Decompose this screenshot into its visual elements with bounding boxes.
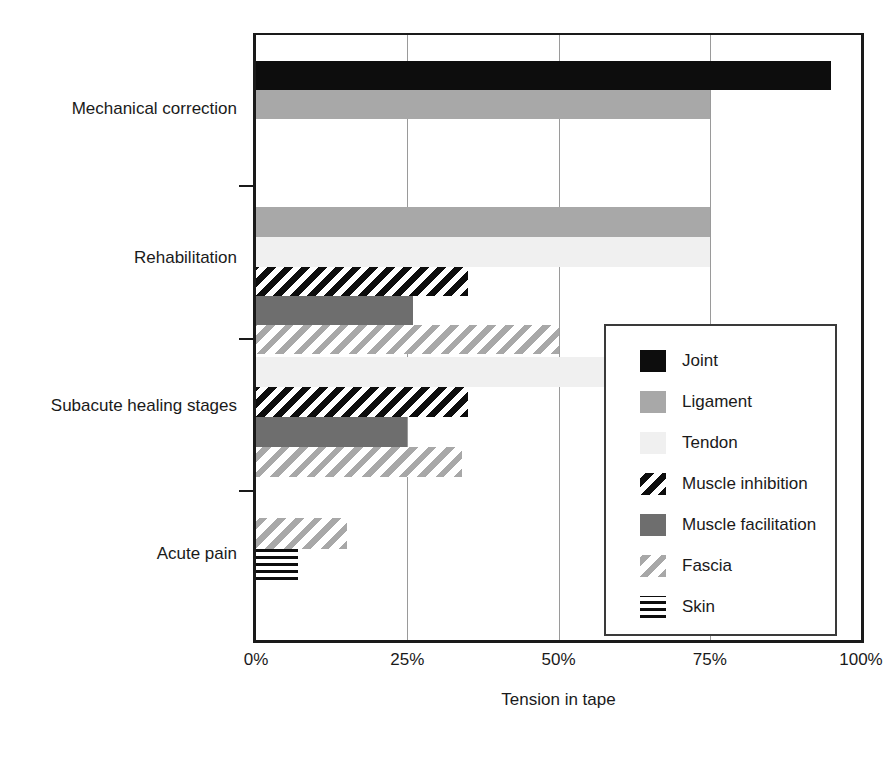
legend-label: Joint — [682, 351, 718, 371]
legend-item-ligament[interactable]: Ligament — [606, 381, 835, 422]
x-axis-tick-label-2: 50% — [541, 650, 575, 670]
bar — [256, 207, 710, 237]
y-axis-label-1: Rehabilitation — [134, 248, 237, 268]
y-axis-tick-0 — [239, 185, 255, 187]
legend-label: Ligament — [682, 392, 752, 412]
legend-swatch-tendon-icon — [640, 432, 666, 454]
bar — [256, 237, 710, 267]
legend-label: Tendon — [682, 433, 738, 453]
legend-swatch-skin-icon — [640, 596, 666, 618]
legend-item-muscle-inhibition[interactable]: Muscle inhibition — [606, 463, 835, 504]
legend-label: Fascia — [682, 556, 732, 576]
legend-item-muscle-facilitation[interactable]: Muscle facilitation — [606, 504, 835, 545]
legend-label: Muscle inhibition — [682, 474, 808, 494]
bar — [256, 549, 298, 580]
y-axis-label-0: Mechanical correction — [72, 99, 237, 119]
gridline-50 — [559, 35, 560, 640]
x-axis-tick-label-3: 75% — [693, 650, 727, 670]
bar — [256, 447, 462, 477]
y-axis-label-3: Acute pain — [157, 544, 237, 564]
bar-chart: Mechanical correctionRehabilitationSubac… — [0, 0, 888, 760]
bar — [256, 90, 710, 119]
legend-item-skin[interactable]: Skin — [606, 586, 835, 627]
y-axis-label-2: Subacute healing stages — [51, 396, 237, 416]
legend-swatch-muscle-facilitation-icon — [640, 514, 666, 536]
legend-swatch-muscle-inhibition-icon — [640, 473, 666, 495]
legend-item-tendon[interactable]: Tendon — [606, 422, 835, 463]
y-axis-tick-2 — [239, 490, 255, 492]
chart-legend: JointLigamentTendonMuscle inhibitionMusc… — [604, 324, 837, 636]
y-axis-tick-1 — [239, 338, 255, 340]
legend-label: Muscle facilitation — [682, 515, 816, 535]
legend-item-joint[interactable]: Joint — [606, 340, 835, 381]
legend-swatch-joint-icon — [640, 350, 666, 372]
x-axis-title: Tension in tape — [253, 690, 864, 710]
x-axis-tick-label-4: 100% — [839, 650, 882, 670]
bar — [256, 325, 559, 354]
bar — [256, 296, 413, 325]
legend-swatch-fascia-icon — [640, 555, 666, 577]
bar — [256, 387, 468, 417]
bar — [256, 417, 407, 447]
legend-item-fascia[interactable]: Fascia — [606, 545, 835, 586]
x-axis-tick-label-1: 25% — [390, 650, 424, 670]
bar — [256, 61, 831, 90]
legend-label: Skin — [682, 597, 715, 617]
y-axis-labels: Mechanical correctionRehabilitationSubac… — [0, 33, 237, 643]
bar — [256, 518, 347, 549]
legend-swatch-ligament-icon — [640, 391, 666, 413]
bar — [256, 267, 468, 296]
x-axis-tick-label-0: 0% — [244, 650, 269, 670]
